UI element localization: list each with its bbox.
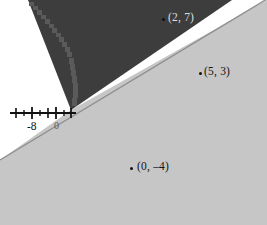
x-axis-tick-label: -8 — [27, 121, 37, 133]
plot-canvas — [0, 0, 267, 225]
point-label-3: (0, –4) — [137, 161, 169, 173]
point-label-2: (5, 3) — [204, 66, 230, 78]
inequality-graph-figure: (2, 7) (5, 3) (0, –4) -8 0 — [0, 0, 267, 225]
origin-label: 0 — [54, 121, 59, 131]
point-label-1: (2, 7) — [168, 12, 194, 24]
